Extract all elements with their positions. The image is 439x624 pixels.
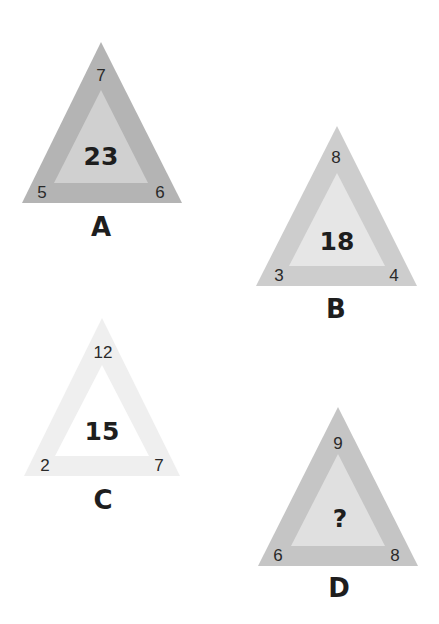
triangle-b-left-number: 3 bbox=[274, 267, 283, 284]
triangle-a-left-number: 5 bbox=[37, 184, 46, 201]
triangle-c-label: C bbox=[93, 487, 112, 513]
triangle-number-puzzle: 7 5 6 23 A 8 3 4 18 B 12 2 7 15 C 9 6 8 … bbox=[0, 0, 439, 624]
triangle-a-top-number: 7 bbox=[96, 67, 105, 84]
triangle-b-top-number: 8 bbox=[331, 149, 340, 166]
triangle-d-right-number: 8 bbox=[390, 547, 399, 564]
triangle-c-center-number: 15 bbox=[85, 419, 120, 444]
triangle-d-shape bbox=[258, 407, 418, 566]
triangle-b-right-number: 4 bbox=[389, 267, 398, 284]
triangles-canvas bbox=[0, 0, 439, 624]
triangle-a-right-number: 6 bbox=[155, 184, 164, 201]
triangle-b-label: B bbox=[326, 296, 346, 322]
triangle-d-label: D bbox=[328, 575, 350, 601]
triangle-c-left-number: 2 bbox=[40, 457, 49, 474]
triangle-b-center-number: 18 bbox=[320, 229, 355, 254]
triangle-a-center-number: 23 bbox=[84, 144, 119, 169]
triangle-d-left-number: 6 bbox=[273, 547, 282, 564]
triangle-d-top-number: 9 bbox=[333, 435, 342, 452]
triangle-c-right-number: 7 bbox=[154, 457, 163, 474]
triangle-c-top-number: 12 bbox=[94, 344, 113, 361]
triangle-d-unknown-question-mark: ? bbox=[333, 506, 348, 531]
triangle-a-label: A bbox=[91, 214, 111, 240]
